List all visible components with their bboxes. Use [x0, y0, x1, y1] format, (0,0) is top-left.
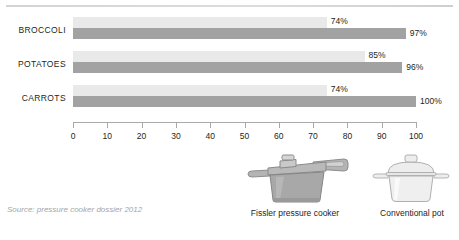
x-axis-tick-label: 40 [205, 131, 214, 141]
pressure-cooker-icon [240, 148, 350, 204]
x-axis-tick-label: 60 [274, 131, 283, 141]
x-axis-tick-label: 20 [137, 131, 146, 141]
x-axis-tick [279, 122, 280, 128]
bar-conventional-carrots [73, 96, 416, 107]
conventional-pot-illustration [372, 148, 452, 208]
x-axis-tick [416, 122, 417, 128]
bar-value-fissler-carrots: 74% [331, 84, 348, 94]
x-axis-tick-label: 70 [308, 131, 317, 141]
chart-row-carrots: CARROTS 74% 100% [0, 84, 459, 110]
bar-conventional-potatoes [73, 62, 402, 73]
x-axis-tick [245, 122, 246, 128]
x-axis-tick [73, 122, 74, 128]
chart-row-broccoli: BROCCOLI 74% 97% [0, 16, 459, 42]
x-axis-tick-label: 90 [377, 131, 386, 141]
source-note: Source: pressure cooker dossier 2012 [7, 205, 142, 214]
bar-value-fissler-potatoes: 85% [369, 50, 386, 60]
x-axis-tick [176, 122, 177, 128]
x-axis-tick-label: 50 [240, 131, 249, 141]
bar-value-conventional-potatoes: 96% [406, 62, 423, 72]
legend-label-conventional-pot: Conventional pot [350, 208, 459, 218]
pressure-cooker-illustration [240, 148, 350, 208]
bar-value-fissler-broccoli: 74% [331, 16, 348, 26]
top-divider [6, 5, 453, 7]
x-axis-tick [210, 122, 211, 128]
category-label-broccoli: BROCCOLI [0, 25, 66, 35]
chart-row-potatoes: POTATOES 85% 96% [0, 50, 459, 76]
infographic-root: BROCCOLI 74% 97% POTATOES 85% 96% CARROT… [0, 0, 459, 240]
x-axis-tick-label: 0 [71, 131, 76, 141]
x-axis-tick-label: 100 [409, 131, 423, 141]
legend-label-pressure-cooker: Fissler pressure cooker [230, 208, 360, 218]
x-axis-tick [142, 122, 143, 128]
x-axis-tick-label: 80 [343, 131, 352, 141]
bar-fissler-broccoli [73, 17, 327, 28]
bar-chart: BROCCOLI 74% 97% POTATOES 85% 96% CARROT… [0, 12, 459, 132]
bar-fissler-potatoes [73, 51, 365, 62]
x-axis-tick-label: 30 [171, 131, 180, 141]
bar-fissler-carrots [73, 85, 327, 96]
x-axis-tick [382, 122, 383, 128]
bar-conventional-broccoli [73, 28, 406, 39]
x-axis: 0102030405060708090100 [73, 122, 416, 130]
bar-value-conventional-broccoli: 97% [410, 28, 427, 38]
cooking-pot-icon [372, 148, 452, 204]
x-axis-tick-label: 10 [103, 131, 112, 141]
x-axis-tick [313, 122, 314, 128]
category-label-potatoes: POTATOES [0, 59, 66, 69]
category-label-carrots: CARROTS [0, 93, 66, 103]
x-axis-tick [107, 122, 108, 128]
x-axis-tick [347, 122, 348, 128]
bar-value-conventional-carrots: 100% [420, 96, 442, 106]
